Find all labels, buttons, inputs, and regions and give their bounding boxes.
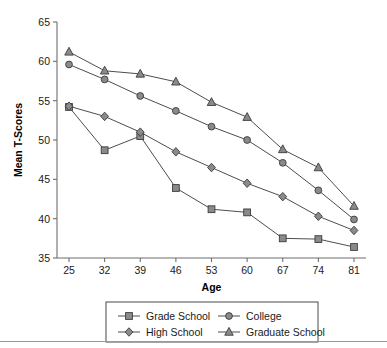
- x-tick-label: 60: [241, 264, 253, 276]
- y-tick-label: 55: [38, 95, 50, 107]
- x-tick-label: 32: [99, 264, 111, 276]
- data-point-graduate-school-25: [65, 47, 74, 55]
- legend-label: High School: [146, 326, 203, 338]
- data-point-grade-school-81: [351, 244, 358, 251]
- y-tick-label: 40: [38, 213, 50, 225]
- x-tick-label: 46: [170, 264, 182, 276]
- data-point-graduate-school-32: [100, 66, 109, 74]
- data-point-grade-school-74: [315, 236, 322, 243]
- footer-divider: [0, 341, 387, 342]
- data-point-college-74: [315, 187, 322, 194]
- data-point-college-46: [172, 107, 179, 114]
- legend-marker-circle: [226, 313, 233, 320]
- y-tick-label: 35: [38, 252, 50, 264]
- data-point-college-25: [66, 61, 73, 68]
- x-tick-label: 53: [206, 264, 218, 276]
- legend-marker-square: [126, 313, 133, 320]
- series-line-college: [69, 64, 354, 219]
- data-point-grade-school-46: [172, 185, 179, 192]
- data-point-college-53: [208, 123, 215, 130]
- data-point-high-school-67: [279, 192, 287, 201]
- data-point-high-school-46: [172, 148, 180, 157]
- data-point-college-39: [137, 93, 144, 100]
- line-chart: 35404550556065253239465360677481AgeMean …: [0, 0, 387, 348]
- data-point-college-81: [351, 216, 358, 223]
- x-tick-label: 67: [277, 264, 289, 276]
- data-point-grade-school-67: [279, 235, 286, 242]
- legend-label: Graduate School: [246, 326, 325, 338]
- y-tick-label: 50: [38, 134, 50, 146]
- data-point-grade-school-60: [244, 209, 251, 216]
- x-tick-label: 81: [348, 264, 360, 276]
- data-point-graduate-school-53: [207, 98, 216, 106]
- y-tick-label: 65: [38, 16, 50, 28]
- x-tick-label: 25: [63, 264, 75, 276]
- data-point-graduate-school-60: [243, 113, 252, 121]
- data-point-high-school-81: [350, 226, 358, 235]
- data-point-high-school-53: [208, 163, 216, 172]
- legend-label: Grade School: [146, 310, 210, 322]
- data-point-grade-school-32: [101, 147, 108, 154]
- data-point-college-67: [279, 159, 286, 166]
- data-point-college-32: [101, 76, 108, 83]
- data-point-grade-school-53: [208, 206, 215, 213]
- data-point-college-60: [244, 137, 251, 144]
- data-point-high-school-32: [101, 112, 109, 121]
- x-tick-label: 74: [313, 264, 325, 276]
- x-tick-label: 39: [134, 264, 146, 276]
- y-tick-label: 60: [38, 55, 50, 67]
- data-point-graduate-school-67: [279, 145, 288, 153]
- data-point-high-school-74: [314, 212, 322, 221]
- x-axis-title: Age: [202, 281, 222, 293]
- y-tick-label: 45: [38, 173, 50, 185]
- legend-label: College: [246, 310, 282, 322]
- y-axis-title: Mean T-Scores: [12, 103, 24, 177]
- data-point-high-school-60: [243, 179, 251, 188]
- data-point-graduate-school-74: [314, 163, 323, 171]
- chart-figure: 35404550556065253239465360677481AgeMean …: [0, 0, 387, 348]
